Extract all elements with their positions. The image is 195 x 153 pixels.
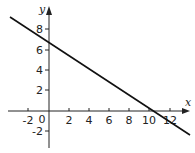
x-tick-label: 8 [126,114,133,127]
line-chart: -2 2 4 6 8 10 12 0 8 6 4 2 -2 x y [0,0,195,153]
x-tick-label: 6 [106,114,113,127]
x-tick-label: 2 [66,114,73,127]
x-axis-label: x [185,96,192,109]
y-tick-label: 2 [36,84,43,97]
x-tick-label: 10 [142,114,156,127]
y-tick-label: 4 [36,64,43,77]
y-tick-label: -2 [32,125,43,138]
y-ticks [45,29,49,131]
y-axis-label: y [38,3,46,16]
y-axis-arrow-icon [46,6,52,15]
y-tick-label: 6 [36,44,43,57]
x-tick-label: 4 [86,114,93,127]
